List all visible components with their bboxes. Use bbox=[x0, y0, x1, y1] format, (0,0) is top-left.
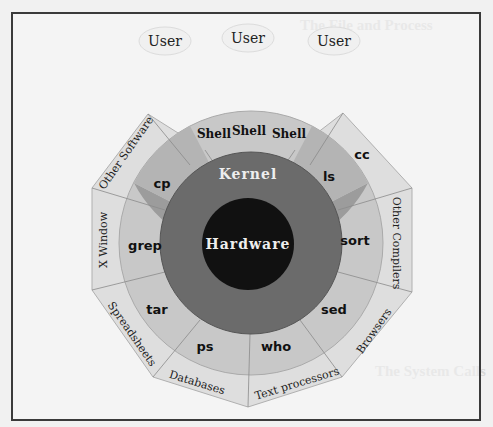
kernel-label: Kernel bbox=[219, 166, 278, 182]
command-cp: cp bbox=[153, 176, 170, 191]
command-tar: tar bbox=[146, 302, 168, 317]
command-sed: sed bbox=[321, 302, 347, 317]
command-grep: grep bbox=[128, 238, 162, 253]
user-label: User bbox=[148, 33, 182, 49]
command-ls: ls bbox=[323, 169, 335, 184]
shell-label: Shell bbox=[232, 124, 267, 138]
shell-label: Shell bbox=[197, 127, 232, 141]
hardware-label: Hardware bbox=[206, 236, 291, 252]
users: User User User bbox=[139, 24, 360, 55]
user-label: User bbox=[231, 30, 265, 46]
shell-label: Shell bbox=[272, 127, 307, 141]
unix-architecture-diagram: User User User Kernel Hardware Shell She… bbox=[0, 0, 493, 427]
command-who: who bbox=[261, 339, 291, 354]
user-label: User bbox=[317, 33, 351, 49]
app-cc: cc bbox=[354, 147, 369, 162]
app-other-compilers: Other Compilers bbox=[390, 197, 403, 290]
command-sort: sort bbox=[340, 233, 369, 248]
command-ps: ps bbox=[196, 339, 213, 354]
app-x-window: X Window bbox=[97, 211, 110, 268]
